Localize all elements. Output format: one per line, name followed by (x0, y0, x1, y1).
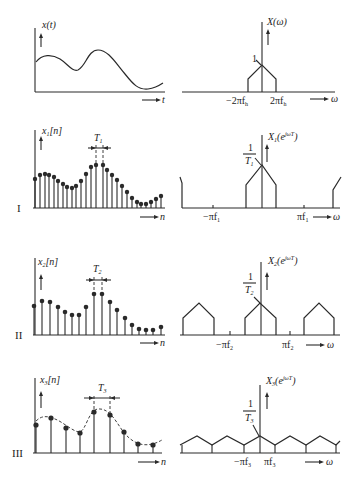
peak-num: 1 (248, 398, 253, 409)
panel-continuous-spectrum: X(ω) 1 −2πfh 2πfh ω (182, 16, 338, 107)
aliasing-overlap-stems (182, 445, 336, 453)
panel-continuous-signal: x(t) t (35, 19, 165, 105)
sampling-figure: x(t) t X(ω) 1 −2πfh 2πfh ω I x1[n] T1 (0, 0, 358, 482)
xt-label: x(t) (41, 19, 57, 31)
row-label-I: I (17, 202, 21, 214)
n-arrowhead-icon (154, 341, 159, 345)
up-arrowhead-icon (265, 144, 269, 149)
signal-curve (36, 50, 163, 89)
peak-num: 1 (248, 271, 253, 282)
t-arrowhead-icon (156, 98, 161, 102)
omega-arrowhead-icon (319, 460, 324, 464)
tick-minus-pif1: −πf1 (203, 211, 220, 223)
T1-label: T1 (94, 132, 103, 144)
X1-label: X1(ejωT) (267, 131, 298, 143)
row-II-spectrum: X2(ejωT) 1 T2 −πf2 πf2 ω (180, 255, 340, 351)
X3-label: X3(ejωT) (265, 375, 296, 387)
row-label-II: II (15, 329, 23, 341)
tick-plus-pif1: πf1 (297, 211, 308, 223)
row-III-spectrum: X3(ejωT) 1 T3 −πf3 πf3 ω (180, 375, 340, 468)
row-III-time: III x3[n] T3 n (12, 374, 166, 467)
peak-1-label: 1 (252, 53, 257, 64)
T3-label: T3 (98, 382, 107, 394)
samples-x3 (33, 409, 155, 453)
peak-pointer (255, 158, 261, 165)
n-label: n (161, 456, 166, 467)
up-arrowhead-icon (39, 274, 43, 279)
X2-label: X2(ejωT) (267, 255, 298, 267)
n-arrowhead-icon (154, 215, 159, 219)
periodic-spectrum-I (180, 165, 341, 208)
tick-minus-pif3: −πf3 (234, 456, 251, 468)
omega-arrowhead-icon (324, 97, 329, 101)
Xw-label: X(ω) (266, 16, 287, 28)
omega-label: ω (333, 211, 340, 222)
x2-label: x2[n] (37, 256, 58, 268)
tick-minus-pif2: −πf2 (216, 339, 233, 351)
tick-plus-pif2: πf2 (282, 339, 293, 351)
omega-arrowhead-icon (327, 215, 332, 219)
peak-pointer (253, 425, 259, 436)
row-II-time: II x2[n] T2 n (15, 256, 165, 348)
peak-num: 1 (248, 142, 253, 153)
T2-label: T2 (93, 263, 102, 275)
samples-x1 (33, 163, 163, 208)
peak-den: T1 (245, 155, 254, 167)
peak-pointer (254, 297, 260, 303)
t-label: t (162, 94, 165, 105)
up-arrowhead-icon (265, 272, 269, 277)
n-label: n (160, 337, 165, 348)
tick-minus-2pifh: −2πfh (226, 95, 248, 107)
x1-label: x1[n] (41, 125, 62, 137)
omega-label: ω (326, 456, 333, 467)
omega-label: ω (331, 93, 338, 104)
up-arrowhead-icon (39, 136, 43, 141)
up-arrowhead-icon (39, 391, 43, 396)
up-arrowhead-icon (39, 33, 43, 38)
row-label-III: III (12, 447, 23, 459)
samples-x2 (32, 292, 164, 335)
x3-label: x3[n] (39, 374, 60, 386)
peak-den: T2 (245, 284, 254, 296)
n-label: n (160, 211, 165, 222)
tick-plus-pif3: πf3 (264, 456, 275, 468)
up-arrowhead-icon (265, 392, 269, 397)
row-I-spectrum: X1(ejωT) 1 T1 −πf1 πf1 ω (180, 131, 341, 223)
n-arrowhead-icon (155, 460, 160, 464)
omega-label: ω (327, 339, 334, 350)
envelope-curve (36, 409, 162, 445)
up-arrowhead-icon (266, 29, 270, 34)
peak-den: T3 (245, 412, 254, 424)
row-I-time: I x1[n] T1 n (17, 125, 165, 222)
omega-arrowhead-icon (320, 343, 325, 347)
periodic-spectrum-II (183, 303, 334, 335)
tick-plus-2pifh: 2πfh (270, 95, 286, 107)
